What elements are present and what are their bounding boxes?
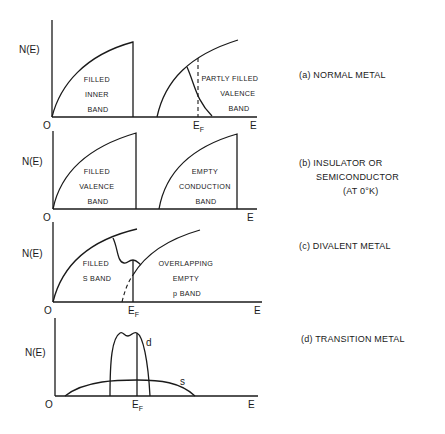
y-axis-label: N(E)	[22, 156, 43, 167]
occupied-density-curve	[113, 238, 141, 265]
x-axis-label: E	[247, 212, 254, 223]
band-structure-figure: N(E) O EF E FILLED INNER BAND PARTLY FIL…	[0, 0, 445, 434]
panel-b: N(E) O E FILLED VALENCE BAND EMPTY CONDU…	[22, 131, 402, 223]
fermi-label: EF	[193, 120, 204, 133]
band-label-s: s	[180, 376, 185, 387]
band-label-p: OVERLAPPING EMPTY p BAND	[158, 259, 215, 298]
fermi-label: EF	[128, 305, 139, 318]
origin-label: O	[43, 212, 51, 223]
fermi-label: EF	[132, 399, 143, 412]
caption-d: (d) TRANSITION METAL	[301, 334, 405, 344]
origin-label: O	[44, 305, 52, 316]
panel-d: N(E) O EF E d s (d) TRANSITION METAL	[25, 318, 405, 412]
d-band-curve	[110, 333, 150, 396]
s-band-curve	[65, 380, 195, 396]
band-label-d: d	[146, 337, 152, 348]
p-band-curve	[133, 230, 200, 275]
band-label-valence: PARTLY FILLED VALENCE BAND	[201, 74, 260, 113]
band-label-valence: FILLED VALENCE BAND	[79, 167, 116, 206]
y-axis-label: N(E)	[25, 347, 46, 358]
caption-c: (c) DIVALENT METAL	[299, 241, 391, 251]
y-axis-label: N(E)	[19, 44, 40, 55]
band-label-s: FILLED S BAND	[83, 259, 112, 283]
band-label-inner: FILLED INNER BAND	[84, 75, 112, 114]
panel-a: N(E) O EF E FILLED INNER BAND PARTLY FIL…	[19, 20, 386, 133]
y-axis-label: N(E)	[22, 248, 43, 259]
p-band-hidden-curve	[122, 275, 133, 302]
caption-a: (a) NORMAL METAL	[299, 70, 386, 80]
panel-c: N(E) O EF E FILLED S BAND OVERLAPPING EM…	[22, 222, 391, 318]
origin-label: O	[45, 399, 53, 410]
x-axis-label: E	[250, 120, 257, 131]
x-axis-label: E	[254, 305, 261, 316]
origin-label: O	[43, 120, 51, 131]
x-axis-label: E	[248, 399, 255, 410]
caption-b: (b) INSULATOR OR SEMICONDUCTOR (AT 0°K)	[299, 158, 402, 196]
band-label-conduction: EMPTY CONDUCTION BAND	[179, 167, 233, 206]
